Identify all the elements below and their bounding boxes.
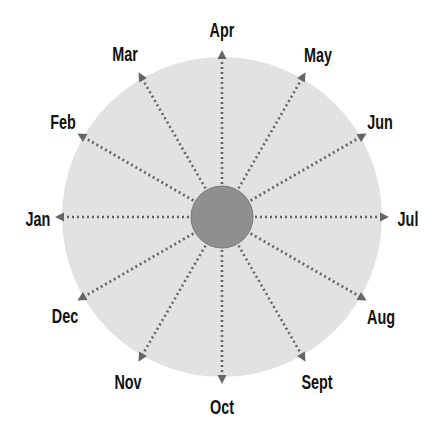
month-label-nov: Nov [114,371,141,394]
month-label-jul: Jul [398,208,419,231]
arrowhead-icon [218,50,227,59]
month-wheel-diagram: JanFebMarAprMayJunJulAugSeptOctNovDec [0,0,437,444]
month-label-jan: Jan [26,208,51,231]
month-label-jun: Jun [367,111,393,134]
month-label-oct: Oct [210,396,234,419]
arrowhead-icon [55,213,64,222]
month-label-feb: Feb [50,111,76,134]
wheel-graphic [0,0,437,444]
month-label-may: May [304,44,332,67]
center-hub [191,186,253,248]
month-label-dec: Dec [52,305,78,328]
arrowhead-icon [218,375,227,384]
month-label-aug: Aug [367,306,395,329]
month-label-mar: Mar [112,43,138,66]
month-label-sept: Sept [301,371,332,394]
month-label-apr: Apr [210,19,235,42]
arrowhead-icon [380,213,389,222]
